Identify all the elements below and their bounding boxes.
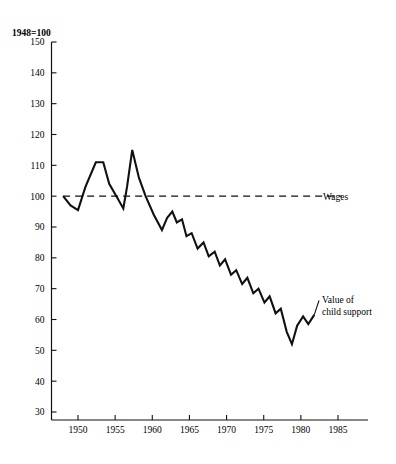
y-axis-tick-label: 90 [35,222,45,232]
y-axis-tick-label: 60 [35,315,45,325]
y-axis-tick-label: 80 [35,253,45,263]
child-support-leader-line [314,301,319,315]
y-axis-tick-label: 150 [30,37,45,47]
y-axis-ticks: 15014013012011010090807060504030 [30,37,56,417]
x-axis-ticks: 19501955196019651970197519801985 [69,415,348,435]
child-support-series-line [63,150,314,344]
y-axis-tick-label: 120 [30,130,45,140]
y-axis-tick-label: 100 [30,192,45,202]
child-support-series-label-line2: child support [322,307,372,317]
x-axis-tick-label: 1960 [143,425,162,435]
child-support-series-label-line1: Value of [322,295,355,305]
y-axis-tick-label: 40 [35,377,45,387]
y-axis-tick-label: 140 [30,68,45,78]
x-axis-tick-label: 1950 [69,425,88,435]
wages-series-label: Wages [323,192,348,202]
x-axis-tick-label: 1955 [106,425,125,435]
y-axis-tick-label: 70 [35,284,45,294]
y-axis-tick-label: 110 [31,161,45,171]
y-axis-tick-label: 30 [35,407,45,417]
y-axis-tick-label: 130 [30,99,45,109]
y-axis-tick-label: 50 [35,346,45,356]
x-axis-tick-label: 1965 [180,425,199,435]
x-axis-tick-label: 1980 [291,425,310,435]
x-axis-tick-label: 1970 [217,425,236,435]
x-axis-tick-label: 1985 [329,425,348,435]
chart-canvas: 1948=100 1501401301201101009080706050403… [0,0,396,464]
x-axis-tick-label: 1975 [254,425,273,435]
chart-figure: 1948=100 1501401301201101009080706050403… [0,0,396,464]
